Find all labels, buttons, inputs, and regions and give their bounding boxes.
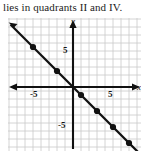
tick-label-y-positive-5: 5 (63, 46, 68, 55)
tick-label-y-negative-5: -5 (58, 121, 66, 130)
coordinate-graph: -5 5 5 -5 y x (8, 18, 141, 151)
axis-label-y: y (71, 18, 75, 26)
caption-text: lies in quadrants II and IV. (3, 0, 146, 16)
axis-label-x: x (137, 83, 141, 92)
axes-and-plot (8, 18, 141, 151)
tick-label-x-positive-5: 5 (108, 90, 113, 99)
tick-label-x-negative-5: -5 (30, 90, 38, 99)
figure-root: lies in quadrants II and IV. (0, 0, 146, 151)
